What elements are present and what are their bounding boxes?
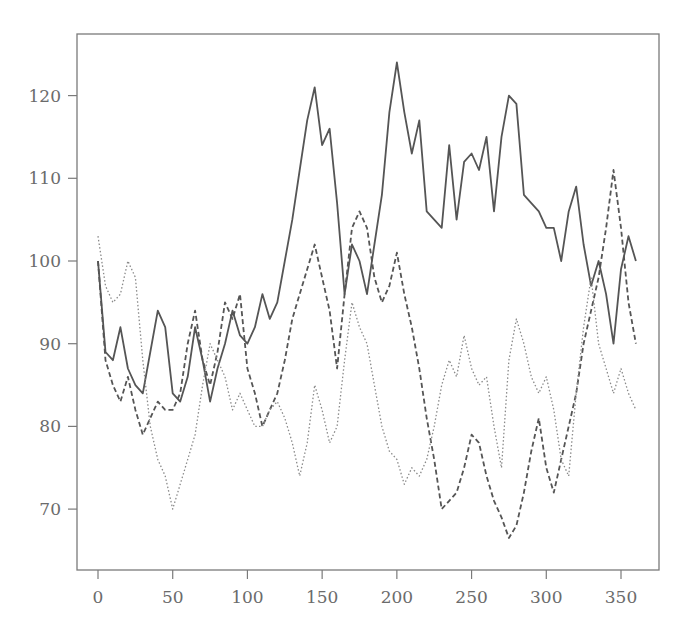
y-tick-label: 80	[39, 416, 61, 436]
y-axis: 708090100110120	[29, 86, 77, 519]
y-tick-label: 120	[29, 86, 61, 106]
series-layer	[98, 63, 636, 539]
y-tick-label: 90	[39, 334, 61, 354]
y-tick-label: 110	[29, 168, 61, 188]
x-tick-label: 0	[93, 587, 104, 607]
y-tick-label: 100	[29, 251, 61, 271]
y-tick-label: 70	[39, 499, 61, 519]
line-chart: 050100150200250300350 708090100110120	[0, 0, 691, 638]
x-tick-label: 100	[231, 587, 263, 607]
plot-frame	[77, 34, 659, 570]
x-tick-label: 200	[381, 587, 413, 607]
x-tick-label: 150	[306, 587, 338, 607]
series-dotted-line	[98, 236, 636, 509]
x-axis: 050100150200250300350	[93, 570, 638, 607]
x-tick-label: 50	[162, 587, 184, 607]
x-tick-label: 350	[605, 587, 637, 607]
series-solid-line	[98, 63, 636, 402]
chart-canvas: 050100150200250300350 708090100110120	[0, 0, 691, 638]
x-tick-label: 300	[530, 587, 562, 607]
x-tick-label: 250	[455, 587, 487, 607]
series-dashed-line	[98, 170, 636, 538]
